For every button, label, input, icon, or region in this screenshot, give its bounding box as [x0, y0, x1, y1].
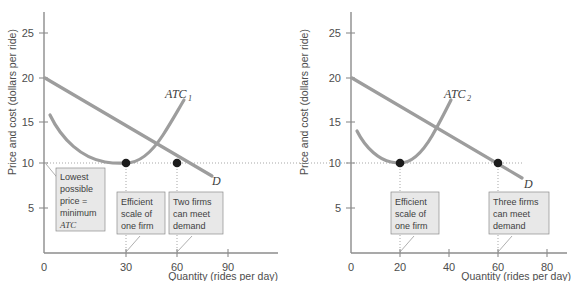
right-ytick-label-25: 25 — [329, 27, 341, 39]
right-xtick-label-20: 20 — [394, 261, 406, 273]
left-atc-curve — [50, 100, 184, 163]
right-note1-line1: Efficient — [395, 197, 427, 207]
left-note1-line3: price = — [60, 196, 87, 206]
left-efficient-scale-dot — [122, 159, 131, 168]
left-xtick-label-0: 0 — [41, 261, 47, 273]
right-demand-price-dot — [494, 159, 503, 168]
left-note3-line1: Two firms — [173, 197, 212, 207]
right-atc-label: ATC — [443, 87, 467, 101]
left-note2-line3: one firm — [121, 221, 154, 231]
right-note-three-firms: Three firms can meet demand — [489, 192, 549, 234]
right-ytick-label-15: 15 — [329, 116, 341, 128]
right-xtick-label-40: 40 — [443, 261, 455, 273]
left-note1-line1: Lowest — [60, 172, 89, 182]
right-ytick-label-10: 10 — [329, 157, 341, 169]
right-demand-label: D — [523, 177, 533, 191]
left-ytick-label-20: 20 — [22, 72, 34, 84]
right-efficient-scale-dot — [396, 159, 405, 168]
right-ytick-label-5: 5 — [335, 202, 341, 214]
right-note1-line2: scale of — [395, 209, 427, 219]
left-note3-line3: demand — [173, 221, 206, 231]
left-note-two-firms: Two firms can meet demand — [169, 192, 223, 234]
right-x-axis-title: Quantity (rides per day) — [461, 270, 571, 281]
left-demand-price-dot — [173, 159, 182, 168]
left-x-axis-title: Quantity (rides per day) — [168, 270, 278, 281]
chart-panel-left: Price and cost (dollars per ride) 25 20 … — [0, 0, 290, 281]
left-note2-leader — [126, 236, 140, 252]
left-note1-line2: possible — [60, 184, 93, 194]
left-note-efficient-scale: Efficient scale of one firm — [117, 192, 165, 234]
left-atc-subscript: 1 — [188, 94, 192, 103]
right-ytick-label-20: 20 — [329, 72, 341, 84]
left-y-axis-title: Price and cost (dollars per ride) — [6, 29, 18, 175]
right-note2-line2: can meet — [493, 209, 531, 219]
left-ytick-label-10: 10 — [22, 157, 34, 169]
left-note3-leader — [177, 236, 192, 252]
left-note2-line1: Efficient — [121, 197, 153, 207]
right-xtick-label-0: 0 — [348, 261, 354, 273]
left-note2-line2: scale of — [121, 209, 153, 219]
right-note-efficient-scale: Efficient scale of one firm — [391, 192, 439, 234]
left-note1-line5: ATC — [59, 220, 77, 230]
left-note3-line2: can meet — [173, 209, 211, 219]
left-note1-line4: minimum — [60, 208, 97, 218]
right-note1-leader — [400, 236, 414, 252]
left-demand-label: D — [211, 174, 221, 188]
left-xtick-label-30: 30 — [120, 261, 132, 273]
left-ytick-label-15: 15 — [22, 116, 34, 128]
chart-panel-right: Price and cost (dollars per ride) 25 20 … — [290, 0, 573, 281]
economics-figure: Price and cost (dollars per ride) 25 20 … — [0, 0, 573, 281]
left-atc-label: ATC — [164, 87, 188, 101]
left-panel-svg: Price and cost (dollars per ride) 25 20 … — [0, 0, 290, 281]
left-ytick-label-25: 25 — [22, 27, 34, 39]
right-atc-subscript: 2 — [467, 94, 471, 103]
right-note1-line3: one firm — [395, 221, 428, 231]
right-note2-line3: demand — [493, 221, 526, 231]
left-note-lowest-price: Lowest possible price = minimum ATC — [56, 168, 105, 231]
right-note2-leader — [498, 236, 512, 252]
right-panel-svg: Price and cost (dollars per ride) 25 20 … — [290, 0, 573, 281]
left-ytick-label-5: 5 — [28, 202, 34, 214]
right-y-axis-title: Price and cost (dollars per ride) — [298, 29, 310, 175]
right-note2-line1: Three firms — [493, 197, 539, 207]
